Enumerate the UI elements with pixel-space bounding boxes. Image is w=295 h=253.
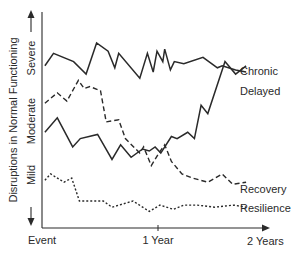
series-layer xyxy=(45,43,246,212)
x-label-event: Event xyxy=(28,234,56,246)
y-axis-title: Disruptions in Normal Functioning xyxy=(7,37,19,202)
y-axis-up-arrow-icon xyxy=(28,10,35,32)
series-recovery-line xyxy=(45,80,246,184)
trajectory-chart: Disruptions in Normal Functioning Severe… xyxy=(0,0,295,253)
y-level-mild: Mild xyxy=(25,165,37,185)
x-label-2-years: 2 Years xyxy=(247,235,284,247)
series-resilience-line xyxy=(45,174,246,212)
legend-resilience: Resilience xyxy=(240,202,291,214)
legend-delayed: Delayed xyxy=(240,85,280,97)
series-delayed-line xyxy=(45,62,246,160)
y-level-moderate: Moderate xyxy=(25,98,37,144)
legend-recovery: Recovery xyxy=(240,183,287,195)
x-axis-arrow-icon xyxy=(262,225,270,232)
legend-chronic: Chronic xyxy=(240,65,278,77)
series-chronic-line xyxy=(45,43,246,78)
y-axis-down-arrow-icon xyxy=(28,207,35,226)
y-level-severe: Severe xyxy=(25,41,37,76)
x-label-1-year: 1 Year xyxy=(142,234,174,246)
